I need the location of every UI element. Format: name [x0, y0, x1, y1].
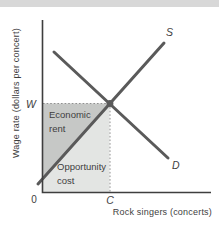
- opportunity-cost-label-line1: Opportunity: [57, 161, 106, 172]
- wage-value-label: W: [26, 98, 37, 110]
- opportunity-cost-label-line2: cost: [57, 175, 75, 186]
- equilibrium-point: [107, 100, 114, 107]
- demand-curve-label: D: [172, 159, 180, 171]
- y-axis-label: Wage rate (dollars per concert): [11, 28, 21, 158]
- diagram-canvas: Wage rate (dollars per concert) Rock sin…: [0, 0, 219, 231]
- economic-rent-label-line2: rent: [49, 123, 66, 134]
- supply-curve-label: S: [166, 26, 173, 38]
- x-axis-label: Rock singers (concerts): [113, 207, 212, 217]
- supply-demand-figure: Wage rate (dollars per concert) Rock sin…: [0, 0, 219, 231]
- origin-label: 0: [31, 194, 37, 205]
- economic-rent-label-line1: Economic: [49, 109, 91, 120]
- quantity-value-label: C: [106, 194, 114, 206]
